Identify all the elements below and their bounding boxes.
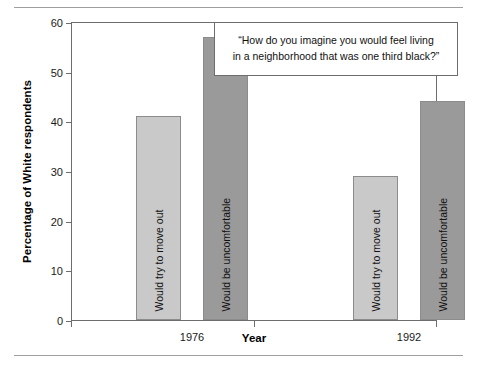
x-axis-title: Year <box>71 332 437 344</box>
x-tick <box>436 321 437 327</box>
bar-label: Would be uncomfortable <box>220 197 231 311</box>
x-tick <box>254 321 255 327</box>
y-tick-label: 30 <box>51 167 63 178</box>
x-tick-label-1992: 1992 <box>397 331 421 343</box>
y-tick <box>66 172 71 173</box>
bar: Would try to move out <box>353 176 398 320</box>
bar: Would try to move out <box>136 116 181 320</box>
bar-label: Would try to move out <box>153 209 164 311</box>
figure-top-rule <box>14 7 463 8</box>
y-tick-label: 10 <box>51 266 63 277</box>
x-tick <box>71 321 72 327</box>
bar: Would be uncomfortable <box>203 37 248 320</box>
y-axis-line <box>71 22 72 321</box>
bar-label: Would try to move out <box>370 209 381 311</box>
y-tick-label: 20 <box>51 216 63 227</box>
survey-question-callout: “How do you imagine you would feel livin… <box>214 22 458 76</box>
y-tick <box>66 73 71 74</box>
y-tick-label: 50 <box>51 67 63 78</box>
y-tick-label: 60 <box>51 18 63 29</box>
bar: Would be uncomfortable <box>420 101 465 320</box>
survey-question-line-2: in a neighborhood that was one third bla… <box>225 48 447 64</box>
bar-label: Would be uncomfortable <box>437 197 448 311</box>
y-tick <box>66 23 71 24</box>
figure: Percentage of White respondents Year 010… <box>0 0 477 374</box>
y-tick <box>66 271 71 272</box>
y-tick <box>66 122 71 123</box>
survey-question-line-1: “How do you imagine you would feel livin… <box>225 32 447 48</box>
y-tick-label: 40 <box>51 117 63 128</box>
y-tick <box>66 222 71 223</box>
figure-bottom-rule <box>14 355 463 356</box>
y-tick-label: 0 <box>57 316 63 327</box>
y-axis-title: Percentage of White respondents <box>18 22 36 321</box>
x-tick-label-1976: 1976 <box>180 331 204 343</box>
